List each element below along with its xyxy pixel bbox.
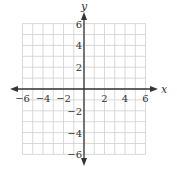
x-tick-label: −6 — [15, 93, 30, 104]
y-tick-label: 6 — [76, 19, 82, 30]
coordinate-plane: x y −6−4−2246642−2−4−6 — [0, 0, 177, 173]
axes: x y — [10, 0, 168, 166]
y-tick-label: 4 — [76, 40, 82, 51]
x-axis-right-arrow-icon — [150, 86, 158, 92]
x-tick-label: −4 — [36, 93, 51, 104]
x-tick-label: 2 — [101, 93, 107, 104]
x-tick-label: 6 — [142, 93, 148, 104]
y-axis-label: y — [80, 0, 88, 13]
y-tick-label: −4 — [67, 128, 82, 139]
x-axis-left-arrow-icon — [10, 86, 18, 92]
x-axis-label: x — [161, 83, 168, 96]
y-tick-label: 2 — [76, 62, 82, 73]
y-tick-label: −6 — [67, 149, 82, 160]
y-tick-label: −2 — [67, 106, 82, 117]
x-tick-label: −2 — [56, 93, 71, 104]
x-tick-label: 4 — [122, 93, 128, 104]
